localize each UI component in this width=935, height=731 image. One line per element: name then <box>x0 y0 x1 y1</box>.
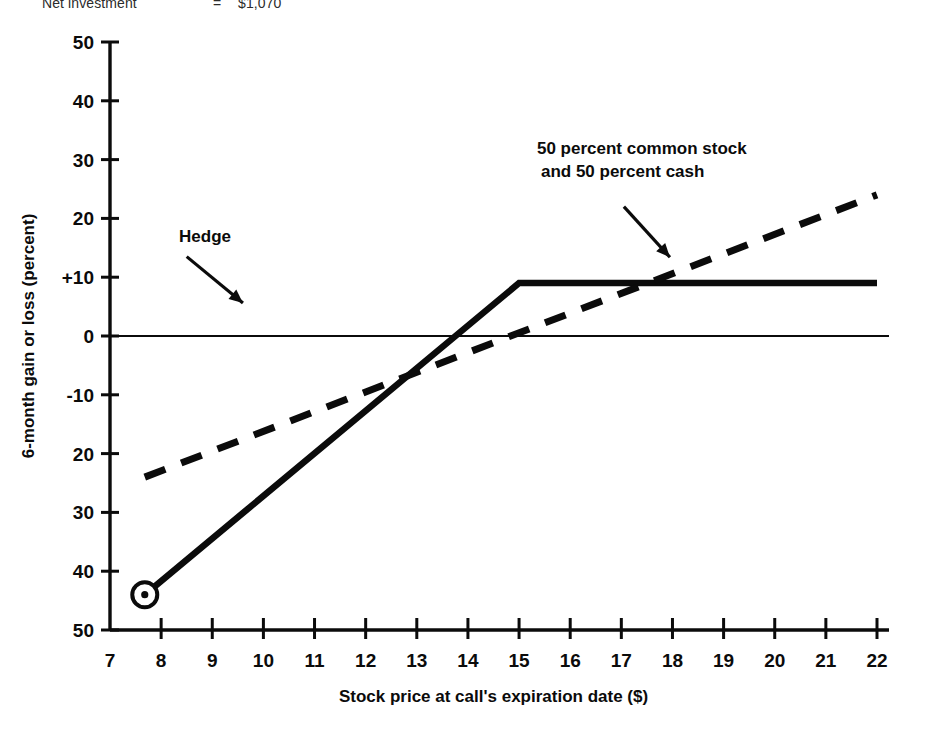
y-axis-tick-label: 20 <box>73 444 94 465</box>
x-axis-title: Stock price at call's expiration date ($… <box>339 687 648 706</box>
y-axis-title: 6-month gain or loss (percent) <box>19 214 38 459</box>
x-axis-tick-label: 15 <box>508 650 530 671</box>
x-axis-tick-label: 16 <box>560 650 581 671</box>
x-axis-tick-label: 19 <box>713 650 734 671</box>
data-point-marker-dot <box>141 591 148 598</box>
y-axis-tick-label: 40 <box>73 561 94 582</box>
y-axis-tick-label: 20 <box>73 208 94 229</box>
y-axis-tick-label: -10 <box>67 385 94 406</box>
y-axis-tick-label: +10 <box>62 267 94 288</box>
x-axis-tick-label: 8 <box>156 650 167 671</box>
x-axis-tick-label: 10 <box>253 650 274 671</box>
mixed-annotation-label-line2: and 50 percent cash <box>541 162 704 181</box>
x-axis-tick-label: 18 <box>662 650 683 671</box>
x-axis: 78910111213141516171819202122 <box>105 618 889 671</box>
axis-titles: Stock price at call's expiration date ($… <box>19 214 648 706</box>
x-axis-tick-label: 11 <box>304 650 325 671</box>
x-axis-tick-label: 22 <box>866 650 887 671</box>
y-axis-tick-label: 40 <box>73 91 94 112</box>
x-axis-tick-label: 14 <box>457 650 479 671</box>
series-line-hedge <box>145 283 877 595</box>
y-axis-tick-label: 50 <box>73 620 94 641</box>
x-axis-tick-label: 9 <box>207 650 218 671</box>
x-axis-tick-label: 13 <box>406 650 427 671</box>
x-axis-tick-label: 20 <box>764 650 785 671</box>
y-axis-tick-label: 30 <box>73 502 94 523</box>
mixed-annotation-label: 50 percent common stockand 50 percent ca… <box>537 139 747 181</box>
chart-plot-area: 50403020+100-1020304050 7891011121314151… <box>0 0 935 731</box>
mixed-annotation-label-line1: 50 percent common stock <box>537 139 747 158</box>
chart-figure: Net investment = $1,070 50403020+100-102… <box>0 0 935 731</box>
y-axis-tick-label: 0 <box>83 326 94 347</box>
y-axis-tick-label: 50 <box>73 32 94 53</box>
y-axis-tick-label: 30 <box>73 150 94 171</box>
x-axis-tick-label: 12 <box>355 650 376 671</box>
x-axis-tick-label: 17 <box>611 650 632 671</box>
x-axis-tick-label: 7 <box>105 650 116 671</box>
hedge-annotation-label: Hedge <box>179 227 231 246</box>
x-axis-tick-label: 21 <box>815 650 837 671</box>
data-series <box>132 195 877 607</box>
